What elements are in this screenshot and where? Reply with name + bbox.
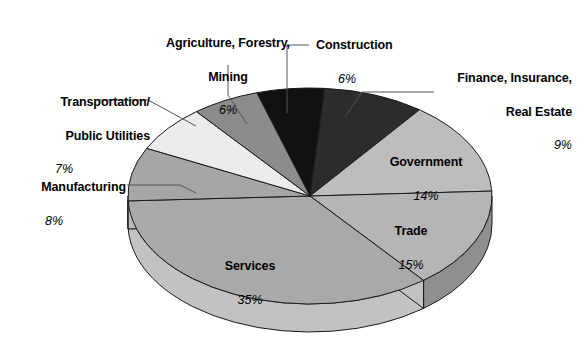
slice-label-agriculture-line2: Mining [126, 70, 330, 85]
slice-label-agriculture-line1: Agriculture, Forestry, [126, 36, 330, 51]
slice-label-trade-percent: 15% [368, 258, 454, 273]
pie-chart-figure: Agriculture, Forestry, Mining 6% Constru… [0, 0, 586, 354]
slice-label-trade: Trade 15% [368, 205, 454, 291]
slice-label-manufacturing: Manufacturing 8% [0, 161, 126, 247]
slice-label-transportation-line2: Public Utilities [0, 129, 150, 144]
slice-label-transportation-line1: Transportation/ [0, 95, 150, 110]
slice-label-construction-line1: Construction [316, 38, 466, 53]
slice-label-agriculture: Agriculture, Forestry, Mining 6% [126, 17, 330, 137]
slice-label-manufacturing-percent: 8% [0, 214, 126, 229]
slice-label-government-line1: Government [364, 155, 488, 170]
slice-label-finance-line1: Finance, Insurance, [386, 71, 572, 86]
slice-label-services: Services 35% [195, 240, 305, 326]
slice-label-agriculture-percent: 6% [126, 103, 330, 118]
slice-label-trade-line1: Trade [368, 224, 454, 239]
slice-label-manufacturing-line1: Manufacturing [0, 180, 126, 195]
slice-label-services-percent: 35% [195, 293, 305, 308]
slice-label-government-percent: 14% [364, 189, 488, 204]
slice-label-finance-line2: Real Estate [386, 105, 572, 120]
slice-label-services-line1: Services [195, 259, 305, 274]
